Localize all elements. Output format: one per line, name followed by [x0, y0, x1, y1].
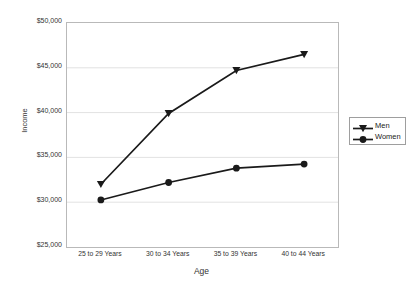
y-axis-tick-label: $50,000 — [18, 17, 62, 24]
legend-item-women[interactable]: Women — [352, 131, 401, 142]
income-by-age-line-chart: Income $50,000$45,000$40,000$35,000$30,0… — [0, 0, 419, 293]
data-point-marker-circle — [233, 165, 240, 172]
y-axis-tick-label: $25,000 — [18, 241, 62, 248]
series-line — [101, 54, 304, 184]
plot-svg — [67, 23, 338, 247]
legend-label: Women — [374, 132, 401, 141]
data-point-marker-circle — [165, 179, 172, 186]
legend-label: Men — [374, 121, 390, 130]
series-women — [97, 161, 307, 204]
y-axis-tick-label: $45,000 — [18, 62, 62, 69]
y-axis-tick-label: $30,000 — [18, 196, 62, 203]
data-point-marker-circle — [301, 161, 308, 168]
y-axis-tick-label: $40,000 — [18, 107, 62, 114]
x-axis-tick-label: 30 to 34 Years — [146, 250, 189, 257]
data-point-marker-circle — [360, 136, 367, 143]
series-line — [101, 164, 304, 200]
legend-item-men[interactable]: Men — [352, 120, 401, 131]
x-axis-tick-label: 40 to 44 Years — [281, 250, 324, 257]
series-men — [97, 51, 308, 188]
y-axis-tick-labels: $50,000$45,000$40,000$35,000$30,000$25,0… — [18, 0, 62, 293]
x-axis-tick-labels: 25 to 29 Years30 to 34 Years35 to 39 Yea… — [66, 250, 337, 264]
data-point-marker-triangle — [97, 181, 105, 188]
chart-legend: MenWomen — [349, 117, 406, 145]
legend-circle-marker-icon — [352, 131, 374, 142]
x-axis-title: Age — [66, 266, 337, 276]
data-point-marker-circle — [97, 197, 104, 204]
x-axis-tick-label: 25 to 29 Years — [78, 250, 121, 257]
legend-triangle-marker-icon — [352, 120, 374, 131]
y-axis-tick-label: $35,000 — [18, 151, 62, 158]
x-axis-tick-label: 35 to 39 Years — [214, 250, 257, 257]
plot-area — [66, 22, 339, 248]
